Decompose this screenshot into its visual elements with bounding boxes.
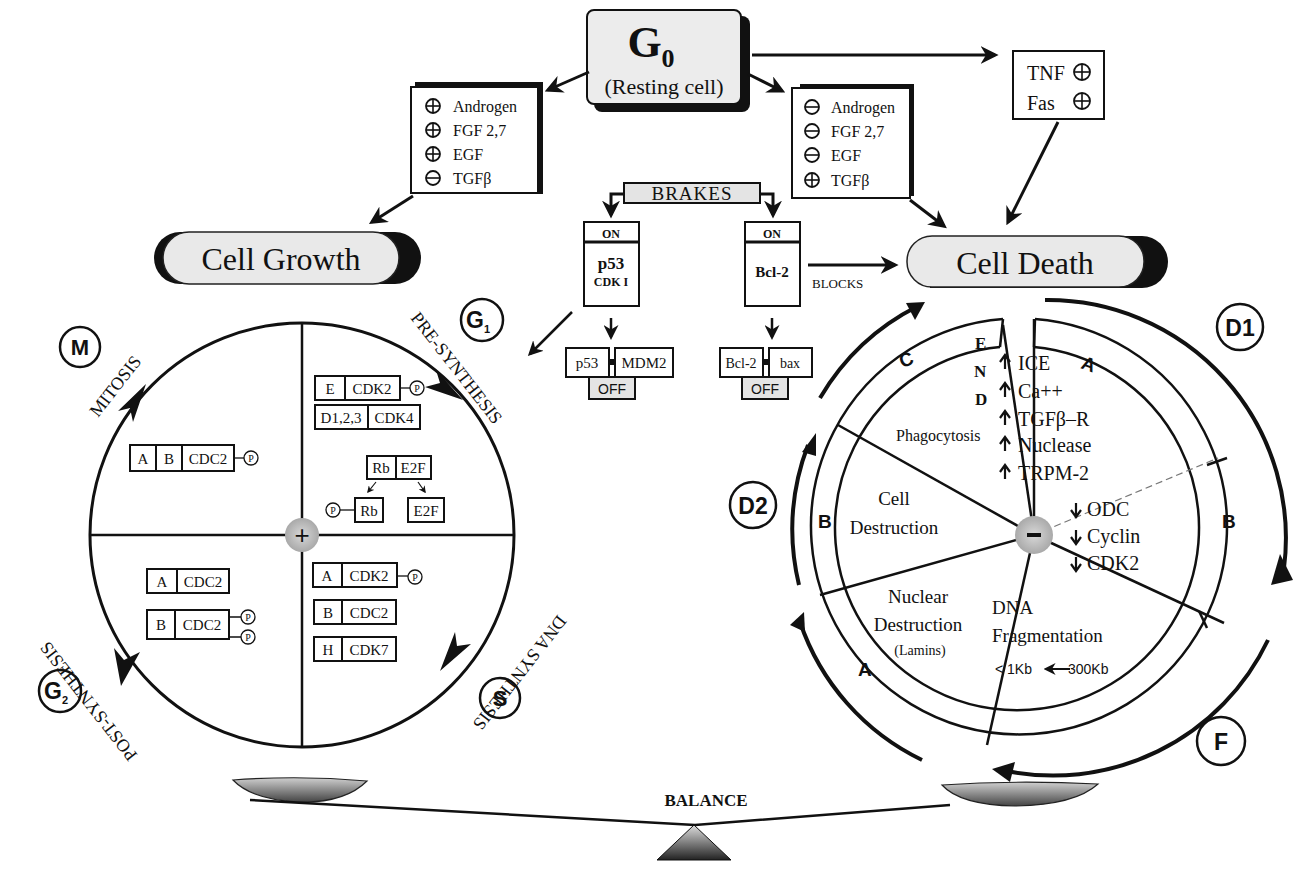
balance-scale: BALANCE bbox=[233, 778, 1098, 860]
receptor-box: TNF Fas bbox=[1013, 51, 1104, 119]
svg-text:F: F bbox=[1214, 729, 1228, 755]
svg-text:P: P bbox=[245, 612, 251, 623]
factor-label: FGF 2,7 bbox=[453, 122, 506, 139]
down-arrow-icon bbox=[1071, 530, 1081, 544]
g0-subscript: 0 bbox=[662, 44, 675, 73]
svg-text:M: M bbox=[71, 335, 89, 360]
brakes-label: BRAKES bbox=[652, 183, 733, 204]
up-item: ICE bbox=[1018, 352, 1050, 374]
cell-growth-label: Cell Growth bbox=[201, 241, 360, 277]
blocks-label: BLOCKS bbox=[812, 276, 863, 291]
ring-label-a: A bbox=[1079, 352, 1099, 377]
svg-text:P: P bbox=[248, 453, 254, 464]
off-label: OFF bbox=[598, 381, 626, 397]
svg-text:Rb: Rb bbox=[360, 503, 378, 519]
svg-text:P: P bbox=[412, 572, 418, 583]
svg-text:E2F: E2F bbox=[413, 503, 438, 519]
p53-state: ON bbox=[602, 227, 620, 241]
minus-sign-icon bbox=[1027, 533, 1041, 537]
off-label: OFF bbox=[751, 381, 779, 397]
p53-label: p53 bbox=[598, 254, 624, 273]
svg-text:300Kb: 300Kb bbox=[1068, 661, 1109, 677]
death-badge-d1: D1 bbox=[1217, 304, 1263, 350]
death-factors-box: Androgen FGF 2,7 EGF TGFβ bbox=[792, 84, 914, 198]
svg-text:E: E bbox=[325, 381, 334, 397]
cdki-label: CDK I bbox=[594, 275, 629, 289]
up-item: TRPM-2 bbox=[1018, 462, 1089, 484]
p53-brake-box: ON p53 CDK I bbox=[584, 222, 639, 306]
down-item: ODC bbox=[1087, 498, 1129, 520]
g2-phase-complexes: A CDC2 B CDC2 P P bbox=[147, 569, 255, 644]
death-badge-d2: D2 bbox=[730, 482, 776, 528]
g0-resting-cell-box: G0 (Resting cell) bbox=[587, 10, 750, 112]
svg-text:N: N bbox=[974, 362, 987, 381]
svg-text:CDC2: CDC2 bbox=[189, 451, 227, 467]
svg-text:CDK2: CDK2 bbox=[352, 381, 391, 397]
death-badge-f: F bbox=[1197, 717, 1245, 765]
svg-text:A: A bbox=[322, 568, 333, 584]
svg-text:CDC2: CDC2 bbox=[350, 605, 388, 621]
svg-text:E: E bbox=[975, 334, 986, 353]
balance-beam bbox=[250, 800, 950, 825]
fulcrum-icon bbox=[657, 825, 731, 860]
down-item: CDK2 bbox=[1087, 552, 1139, 574]
svg-text:CDC2: CDC2 bbox=[184, 574, 222, 590]
svg-text:D2: D2 bbox=[738, 493, 767, 519]
g1-phase-complexes: E CDK2 P D1,2,3 CDK4 Rb E2F P Rb E2F bbox=[315, 376, 444, 522]
dna-synthesis-arrow-icon bbox=[440, 632, 471, 671]
factor-label: Androgen bbox=[453, 98, 517, 116]
svg-text:H: H bbox=[323, 642, 334, 658]
svg-text:D1: D1 bbox=[1225, 315, 1255, 341]
nuclear-destruction-label: Destruction bbox=[874, 614, 963, 635]
ring-label-b: B bbox=[818, 511, 832, 532]
up-item: Ca++ bbox=[1018, 380, 1063, 402]
upregulated-list: ICE Ca++ TGFβ–R Nuclease TRPM-2 bbox=[1000, 352, 1091, 484]
plus-sign-icon: + bbox=[294, 520, 309, 550]
svg-text:P: P bbox=[245, 632, 251, 643]
right-scale-pan bbox=[942, 782, 1098, 806]
svg-text:B: B bbox=[164, 451, 174, 467]
phase-badge-g1: G1 bbox=[461, 299, 503, 341]
svg-text:A: A bbox=[138, 451, 149, 467]
cell-death-pill: Cell Death bbox=[907, 236, 1168, 288]
p53-mdm2-complex: p53 MDM2 OFF bbox=[566, 348, 673, 399]
down-arrow-icon bbox=[1071, 503, 1081, 517]
tnf-label: TNF bbox=[1027, 62, 1065, 84]
bcl2-state: ON bbox=[763, 227, 781, 241]
ring-label-c: C bbox=[896, 347, 916, 372]
dna-fragmentation-label: DNA bbox=[992, 597, 1033, 618]
cell-growth-pill: Cell Growth bbox=[154, 232, 421, 284]
g0-subtitle: (Resting cell) bbox=[604, 74, 723, 99]
fragment-sizes: < 1Kb 300Kb bbox=[995, 661, 1109, 677]
cell-destruction-label: Cell bbox=[878, 488, 910, 509]
end-label: E N D bbox=[974, 334, 987, 409]
svg-text:P: P bbox=[414, 383, 420, 394]
svg-text:CDC2: CDC2 bbox=[183, 617, 221, 633]
factor-label: TGFβ bbox=[453, 170, 491, 188]
bcl2-label: Bcl-2 bbox=[755, 264, 788, 280]
cell-growth-death-balance-diagram: G0 (Resting cell) Androgen FGF 2,7 bbox=[0, 0, 1300, 886]
g0-title: G bbox=[627, 18, 661, 67]
svg-text:CDK2: CDK2 bbox=[349, 568, 388, 584]
ring-label-a: A bbox=[858, 659, 872, 680]
complex-label: p53 bbox=[576, 355, 599, 371]
down-item: Cyclin bbox=[1087, 525, 1140, 548]
left-scale-pan bbox=[233, 778, 367, 802]
cell-destruction-label: Destruction bbox=[850, 517, 939, 538]
up-item: TGFβ–R bbox=[1018, 408, 1090, 431]
f-arrow-icon bbox=[992, 762, 1015, 782]
bcl2-brake-box: ON Bcl-2 bbox=[745, 222, 800, 306]
complex-label: Bcl-2 bbox=[725, 356, 756, 371]
brakes-section: BRAKES ON p53 CDK I p53 MDM2 OFF ON Bcl-… bbox=[566, 183, 895, 399]
factor-label: TGFβ bbox=[831, 172, 869, 190]
svg-text:B: B bbox=[156, 617, 166, 633]
svg-text:D1,2,3: D1,2,3 bbox=[321, 410, 362, 426]
dna-synthesis-label: DNA SYNTHESIS bbox=[469, 612, 571, 734]
apoptosis-wheel: D1 D2 F A B C B A E N D ICE Ca++ TGFβ–R bbox=[730, 300, 1293, 782]
svg-text:B: B bbox=[323, 605, 333, 621]
complex-label: bax bbox=[780, 356, 800, 371]
svg-text:E2F: E2F bbox=[400, 460, 425, 476]
downregulated-list: ODC Cyclin CDK2 bbox=[1071, 498, 1140, 574]
cell-cycle-wheel: + M G1 S G2 MITOSIS PRE-SYNTHE bbox=[36, 299, 571, 765]
up-arrow-icon bbox=[1000, 437, 1010, 451]
